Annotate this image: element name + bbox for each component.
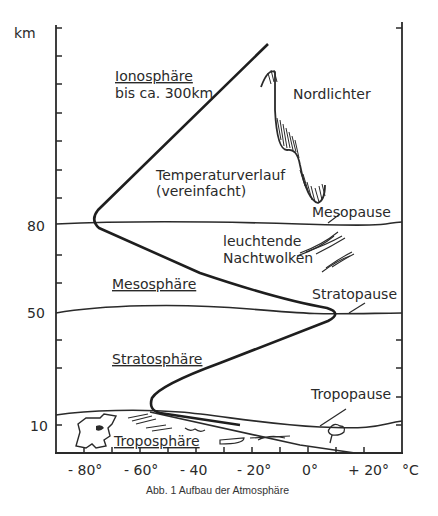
y-tick-80: 80	[27, 218, 45, 234]
label-mesosphere: Mesosphäre	[112, 276, 196, 292]
x-tick--60: - 60°	[124, 462, 158, 478]
x-tick-0: 0°	[302, 462, 318, 478]
label-mesopause: Mesopause	[312, 204, 391, 220]
x-tick--20: - 20°	[237, 462, 271, 478]
figure-caption: Abb. 1 Aufbau der Atmosphäre	[146, 484, 289, 496]
label-stratopause: Stratopause	[312, 286, 397, 302]
label-stratosphere: Stratosphäre	[112, 351, 202, 367]
x-tick--80: - 80°	[68, 462, 102, 478]
label-temperature-curve-1: Temperaturverlauf	[155, 167, 286, 183]
y-axis-ticks-left	[56, 28, 62, 425]
tropopause-leader	[320, 409, 346, 426]
label-ionosphere-note: bis ca. 300km	[115, 85, 213, 101]
stratopause-leader	[349, 303, 365, 313]
y-axis-unit: km	[14, 25, 36, 41]
label-aurora: Nordlichter	[293, 86, 371, 102]
atmosphere-diagram: km 80 50 10 - 80° - 60° - 40 - 20° 0° + …	[0, 0, 438, 516]
y-tick-50: 50	[27, 305, 45, 321]
x-tick-+20: + 20°	[348, 462, 389, 478]
landmass-icon	[76, 414, 116, 448]
y-tick-10: 10	[30, 418, 48, 434]
label-troposphere: Troposphäre	[113, 433, 200, 449]
label-ionosphere: Ionosphäre	[115, 68, 193, 84]
label-tropopause: Tropopause	[310, 386, 391, 402]
x-tick--40: - 40	[180, 462, 207, 478]
mesopause-line	[56, 222, 402, 225]
label-noctilucent-2: Nachtwolken	[223, 250, 313, 266]
label-noctilucent-1: leuchtende	[223, 233, 301, 249]
label-temperature-curve-2: (vereinfacht)	[156, 183, 246, 199]
x-axis-unit: °C	[402, 462, 419, 478]
